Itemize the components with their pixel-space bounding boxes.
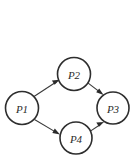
node-p4[interactable]: P4 [60,122,92,154]
node-p2-label: P2 [67,69,81,81]
directed-graph: P1 P2 P3 P4 [0,0,135,162]
edge-line-p1-p2 [34,82,57,97]
arrowhead-p2-p3 [96,88,103,95]
node-group: P1 P2 P3 P4 [6,58,130,155]
node-p4-label: P4 [69,133,83,145]
arrowhead-p1-p4 [52,129,60,135]
edge-p2-to-p3[interactable] [88,83,104,95]
edge-p1-to-p4[interactable] [35,120,61,135]
diagram-canvas: P1 P2 P3 P4 [0,0,135,162]
edge-p1-to-p2[interactable] [34,80,60,97]
node-p2[interactable]: P2 [58,58,91,91]
edge-p4-to-p3[interactable] [90,122,104,131]
node-p3[interactable]: P3 [97,92,129,124]
node-p1-label: P1 [15,103,28,115]
edge-line-p1-p4 [35,120,57,133]
node-p1[interactable]: P1 [6,92,39,125]
node-p3-label: P3 [106,103,120,115]
